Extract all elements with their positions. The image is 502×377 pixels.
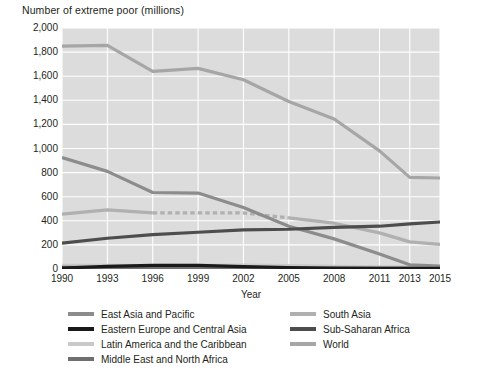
legend-item-label: Eastern Europe and Central Asia [101, 324, 247, 335]
x-tick-label: 1996 [142, 273, 164, 284]
x-tick-label: 1990 [51, 273, 73, 284]
plot-lines [62, 28, 440, 269]
plot-area [62, 28, 440, 269]
legend-item-label: World [323, 339, 349, 350]
x-tick-label: 2002 [232, 273, 254, 284]
y-tick-label: 400 [2, 216, 58, 226]
x-axis-tick-labels: 1990199319961999200220052008201120132015 [62, 273, 440, 287]
chart-title: Number of extreme poor (millions) [22, 4, 184, 16]
x-tick-label: 1993 [96, 273, 118, 284]
y-tick-label: 1,800 [2, 47, 58, 57]
legend-item[interactable]: World [290, 337, 410, 351]
legend-item-label: Sub-Saharan Africa [323, 324, 410, 335]
legend-column-right: South AsiaSub-Saharan AfricaWorld [290, 307, 410, 352]
y-tick-label: 600 [2, 192, 58, 202]
y-axis-tick-labels: 02004006008001,0001,2001,4001,6001,8002,… [0, 28, 58, 269]
legend-column-left: East Asia and PacificEastern Europe and … [68, 307, 247, 367]
x-tick-label: 2005 [278, 273, 300, 284]
legend-color-swatch [290, 342, 316, 346]
y-tick-label: 1,000 [2, 144, 58, 154]
y-tick-label: 1,400 [2, 95, 58, 105]
legend-color-swatch [290, 327, 316, 331]
x-tick-label: 2011 [369, 273, 391, 284]
y-tick-label: 1,200 [2, 119, 58, 129]
y-tick-label: 1,600 [2, 71, 58, 81]
series-line [62, 45, 440, 178]
x-tick-label: 2013 [399, 273, 421, 284]
legend-color-swatch [68, 357, 94, 361]
x-tick-label: 2008 [323, 273, 345, 284]
legend-item[interactable]: East Asia and Pacific [68, 307, 247, 321]
y-tick-label: 200 [2, 240, 58, 250]
x-tick-label: 1999 [187, 273, 209, 284]
legend-item-label: Latin America and the Caribbean [101, 339, 247, 350]
x-tick-label: 2015 [429, 273, 451, 284]
legend-item-label: Middle East and North Africa [101, 354, 228, 365]
legend-item[interactable]: Latin America and the Caribbean [68, 337, 247, 351]
legend-item[interactable]: South Asia [290, 307, 410, 321]
legend-color-swatch [68, 327, 94, 331]
legend-item[interactable]: Sub-Saharan Africa [290, 322, 410, 336]
chart-figure: Number of extreme poor (millions) 020040… [0, 0, 502, 377]
y-tick-label: 2,000 [2, 23, 58, 33]
y-tick-label: 0 [2, 264, 58, 274]
legend-color-swatch [68, 342, 94, 346]
legend-color-swatch [290, 312, 316, 316]
chart-legend: East Asia and PacificEastern Europe and … [62, 307, 482, 369]
legend-item-label: South Asia [323, 309, 371, 320]
y-tick-label: 800 [2, 168, 58, 178]
legend-item-label: East Asia and Pacific [101, 309, 194, 320]
legend-item[interactable]: Middle East and North Africa [68, 352, 247, 366]
legend-item[interactable]: Eastern Europe and Central Asia [68, 322, 247, 336]
x-axis-title: Year [62, 289, 440, 300]
legend-color-swatch [68, 312, 94, 316]
